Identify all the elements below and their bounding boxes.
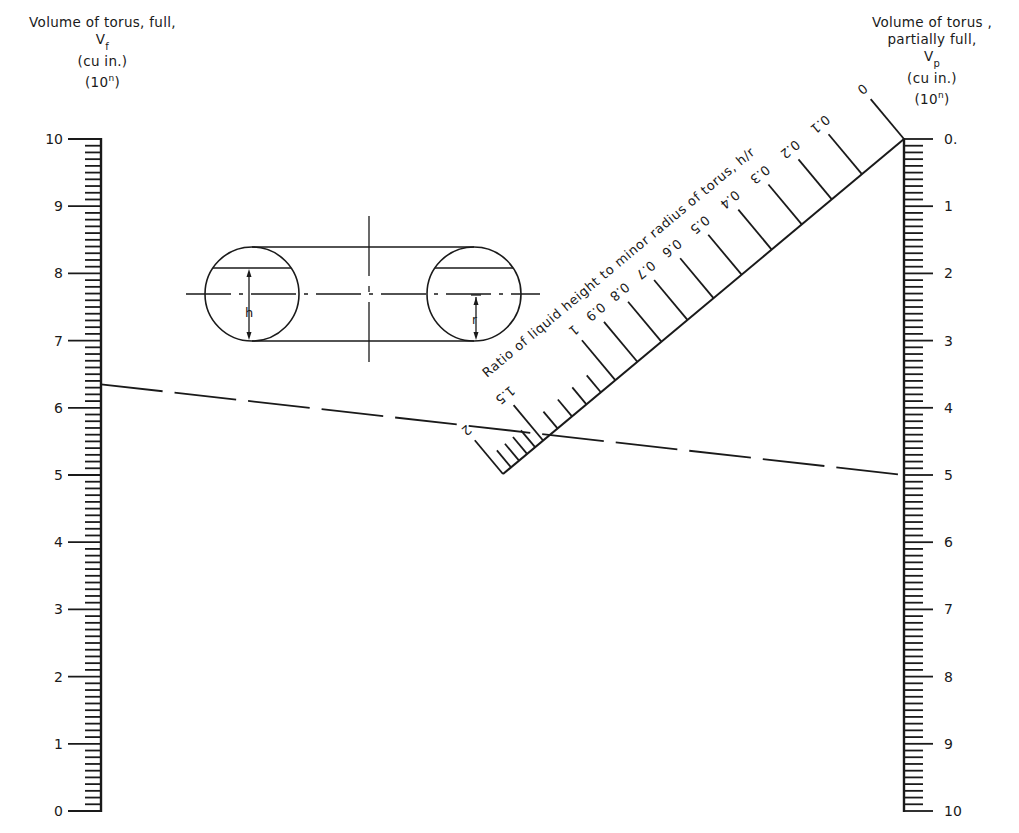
diagonal-tick-label: 0.7 [633,258,658,283]
diagonal-minor-tick [543,412,557,429]
diagonal-major-tick [871,99,904,139]
diagonal-major-tick [604,322,637,362]
left-tick-label: 8 [54,265,63,281]
right-tick-label: 1 [944,198,953,214]
left-tick-label: 10 [45,131,63,147]
radius-arrow-up [474,297,479,305]
height-label: h [245,305,253,320]
right-tick-label: 10 [944,803,962,819]
left-tick-label: 7 [54,333,63,349]
diagonal-major-tick [514,405,543,440]
right-tick-label: 2 [944,265,953,281]
diagonal-major-tick [582,340,615,380]
left-tick-label: 2 [54,669,63,685]
right-tick-label: 4 [944,400,953,416]
diagonal-major-tick [798,159,831,199]
diagonal-tick-label: 0 [854,81,870,98]
diagonal-tick-label: 0.3 [747,162,772,187]
diagonal-minor-tick [497,450,511,467]
diagonal-tick-label: 0.1 [807,112,832,137]
diagonal-tick-label: 0.9 [583,300,608,325]
right-tick-label: 0. [944,131,957,147]
diagonal-major-tick [475,440,503,474]
torus-diagram [186,216,540,366]
nomograph: 012345678910 0.12345678910 00.10.20.30.4… [0,0,1019,833]
diagonal-major-tick [680,258,713,298]
diagonal-axis-title: Ratio of liquid height to minor radius o… [479,144,758,380]
right-tick-label: 5 [944,467,953,483]
diagonal-minor-tick [505,444,519,461]
diagonal-major-tick [654,280,687,320]
radius-label: r [472,313,477,327]
right-tick-label: 3 [944,333,953,349]
diagonal-minor-tick [558,399,572,416]
left-tick-label: 6 [54,400,63,416]
right-axis: 0.12345678910 [904,131,962,819]
left-tick-label: 3 [54,601,63,617]
right-tick-label: 9 [944,736,953,752]
diagonal-major-tick [768,185,801,225]
left-tick-label: 0 [54,803,63,819]
left-axis: 012345678910 [45,131,101,819]
diagonal-major-tick [738,210,771,250]
diagonal-tick-label: 2 [458,422,474,439]
diagonal-tick-label: 1 [566,322,582,339]
diagonal-minor-tick [513,437,527,454]
diagonal-tick-label: 0.6 [659,236,684,261]
right-tick-label: 6 [944,534,953,550]
diagonal-minor-tick [587,375,601,392]
right-tick-label: 7 [944,601,953,617]
diagonal-minor-tick [572,387,586,404]
right-tick-label: 8 [944,669,953,685]
diagonal-tick-label: 0.5 [687,212,712,237]
left-tick-label: 5 [54,467,63,483]
diagonal-major-tick [708,235,741,275]
left-tick-label: 1 [54,736,63,752]
height-arrow-down [247,332,252,340]
diagonal-tick-label: 0.8 [607,279,632,304]
diagonal-tick-label: 0.4 [717,187,742,212]
height-arrow-up [247,269,252,277]
left-tick-label: 9 [54,198,63,214]
diagonal-tick-label: 1.5 [493,383,518,408]
left-tick-label: 4 [54,534,63,550]
diagonal-tick-label: 0.2 [777,137,802,162]
diagonal-major-tick [829,134,862,174]
radius-arrow-down [474,332,479,340]
diagonal-axis: 00.10.20.30.40.50.60.70.80.911.52 [458,81,904,474]
diagonal-major-tick [628,302,661,342]
